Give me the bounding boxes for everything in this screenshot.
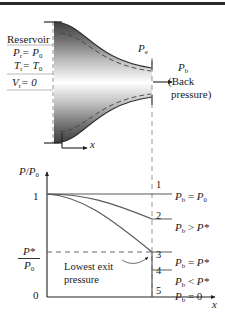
curve-number-1: 1 bbox=[156, 179, 161, 190]
cond1-rhs: P bbox=[197, 190, 204, 202]
curve-condition-5: Pb = 0 bbox=[175, 290, 202, 303]
nozzle-pressure-figure: Reservoir Pr= P0 Tr= T0 Vr= 0 Pe Pb (Bac… bbox=[0, 0, 225, 315]
back-pressure-label: Pb bbox=[178, 62, 188, 74]
pressure-curve-4 bbox=[152, 252, 172, 270]
exit-pressure-subscript: e bbox=[145, 48, 148, 55]
cond1-sub: b bbox=[182, 196, 185, 203]
cond3-rel: = bbox=[188, 256, 194, 268]
upper-x-axis-label: x bbox=[90, 139, 95, 150]
exit-pressure-symbol: P bbox=[138, 42, 145, 54]
chart-y-axis-title: P/P0 bbox=[19, 166, 39, 178]
reservoir-velocity-equals: = 0 bbox=[21, 76, 37, 88]
back-pressure-note-line2: pressure) bbox=[171, 89, 211, 100]
pressure-curve-3 bbox=[47, 194, 172, 252]
critical-pressure-ratio-label: P* P0 bbox=[16, 246, 42, 272]
chart-x-axis-label: x bbox=[212, 299, 217, 310]
cond5-p: P bbox=[175, 290, 182, 302]
cond5-sub: b bbox=[182, 296, 185, 303]
y-axis-denominator-subscript: 0 bbox=[36, 171, 39, 178]
curve-number-3: 3 bbox=[156, 249, 161, 260]
reservoir-temp-equals: = T bbox=[22, 59, 38, 71]
reservoir-temp-value-subscript: 0 bbox=[39, 65, 42, 72]
reservoir-pressure-label: Pr= P0 bbox=[13, 47, 42, 59]
lowest-exit-pressure-line1: Lowest exit bbox=[64, 262, 113, 273]
cond4-p: P bbox=[175, 275, 182, 287]
reservoir-label: Reservoir bbox=[7, 34, 50, 45]
curve-condition-1: Pb = P0 bbox=[175, 190, 207, 203]
critical-ratio-numerator: P* bbox=[16, 246, 42, 257]
curve-condition-3: Pb = P* bbox=[175, 256, 209, 269]
reservoir-pressure-symbol: P bbox=[13, 46, 20, 58]
cond2-sub: b bbox=[182, 227, 185, 234]
cond2-p: P bbox=[175, 221, 182, 233]
cond4-rhs: P* bbox=[197, 275, 209, 287]
reservoir-velocity-symbol: V bbox=[12, 76, 19, 88]
reservoir-velocity-label: Vr= 0 bbox=[12, 77, 37, 89]
cond3-sub: b bbox=[182, 262, 185, 269]
cond4-rel: < bbox=[188, 275, 194, 287]
curve-number-4: 4 bbox=[156, 265, 161, 276]
reservoir-pressure-value-subscript: 0 bbox=[39, 52, 42, 59]
cond3-p: P bbox=[175, 256, 182, 268]
back-pressure-note-line1: (Back bbox=[168, 76, 194, 87]
cond2-rhs: P* bbox=[197, 221, 209, 233]
y-axis-numerator: P bbox=[19, 165, 26, 177]
exit-pressure-label: Pe bbox=[138, 43, 148, 55]
curve-number-5: 5 bbox=[156, 285, 161, 296]
curve-condition-4: Pb < P* bbox=[175, 275, 209, 288]
lowest-exit-pressure-line2: pressure bbox=[64, 275, 99, 286]
cond5-rhs: 0 bbox=[197, 290, 203, 302]
cond1-p: P bbox=[175, 190, 182, 202]
reservoir-temperature-label: Tr= T0 bbox=[14, 60, 42, 72]
cond3-rhs: P* bbox=[197, 256, 209, 268]
cond4-sub: b bbox=[182, 281, 185, 288]
y-tick-one: 1 bbox=[33, 191, 39, 202]
back-pressure-subscript: b bbox=[185, 67, 188, 74]
y-axis-denominator: P bbox=[29, 165, 36, 177]
critical-ratio-denominator: P0 bbox=[16, 260, 42, 272]
cond2-rel: > bbox=[188, 221, 194, 233]
curve-condition-2: Pb > P* bbox=[175, 221, 209, 234]
y-tick-zero: 0 bbox=[33, 290, 39, 301]
cond1-rhs-sub: 0 bbox=[204, 196, 207, 203]
back-pressure-symbol: P bbox=[178, 61, 185, 73]
curve-number-2: 2 bbox=[156, 210, 161, 221]
nozzle-body bbox=[54, 22, 152, 143]
lowest-exit-pressure-leader bbox=[122, 257, 148, 263]
cond5-rel: = bbox=[188, 290, 194, 302]
reservoir-pressure-equals: = P bbox=[22, 46, 39, 58]
cond1-rel: = bbox=[188, 190, 194, 202]
